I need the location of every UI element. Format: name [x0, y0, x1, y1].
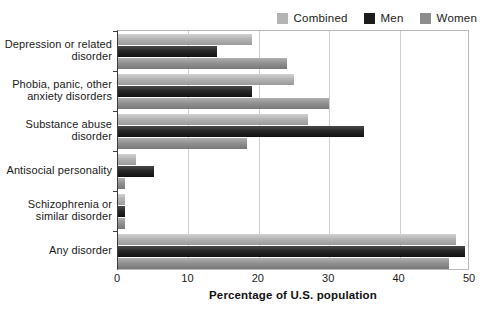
y-axis-label-line: Schizophrenia or — [0, 198, 112, 211]
bar-combined — [118, 234, 456, 245]
x-axis-tick-50: 50 — [463, 272, 475, 284]
bar-combined — [118, 154, 136, 165]
bar-combined — [118, 34, 252, 45]
bar-men — [118, 246, 465, 257]
x-axis-tick-labels: 01020304050 — [117, 272, 469, 288]
bar-group — [118, 111, 468, 151]
y-axis-label-line: disorder — [0, 130, 112, 143]
bar-women — [118, 138, 247, 149]
x-axis-tick-10: 10 — [181, 272, 193, 284]
y-axis-label-line: Antisocial personality — [0, 164, 112, 177]
y-axis-tick — [113, 151, 118, 152]
y-axis-tick — [113, 31, 118, 32]
legend-label-women: Women — [437, 12, 477, 24]
chart-plot-area — [117, 30, 469, 270]
bar-men — [118, 46, 217, 57]
legend-label-men: Men — [381, 12, 404, 24]
bar-group — [118, 71, 468, 111]
bar-group — [118, 31, 468, 71]
bar-group — [118, 191, 468, 231]
legend-item-combined: Combined — [277, 12, 348, 24]
y-axis-label: Substance abusedisorder — [0, 118, 112, 143]
y-axis-label-line: Any disorder — [0, 244, 112, 257]
x-axis-tick-40: 40 — [392, 272, 404, 284]
x-axis-tick-0: 0 — [114, 272, 120, 284]
y-axis-label-line: disorder — [0, 50, 112, 63]
chart-legend: Combined Men Women — [277, 10, 477, 26]
legend-swatch-women — [420, 13, 431, 24]
y-axis-label-line: anxiety disorders — [0, 90, 112, 103]
y-axis-label: Depression or relateddisorder — [0, 38, 112, 63]
bar-group — [118, 151, 468, 191]
y-axis-label-line: Substance abuse — [0, 118, 112, 131]
bar-women — [118, 58, 287, 69]
bar-men — [118, 166, 154, 177]
y-axis-label: Antisocial personality — [0, 164, 112, 177]
bar-men — [118, 126, 364, 137]
y-axis-tick — [113, 191, 118, 192]
y-axis-tick — [113, 71, 118, 72]
legend-item-men: Men — [364, 12, 404, 24]
legend-swatch-men — [364, 13, 375, 24]
y-axis-labels: Depression or relateddisorderPhobia, pan… — [0, 30, 112, 270]
bar-women — [118, 178, 125, 189]
legend-swatch-combined — [277, 13, 288, 24]
y-axis-tick — [113, 111, 118, 112]
bar-group — [118, 231, 468, 271]
bar-men — [118, 86, 252, 97]
y-axis-label-line: Phobia, panic, other — [0, 78, 112, 91]
chart-bar-rows — [118, 31, 468, 269]
y-axis-label: Phobia, panic, otheranxiety disorders — [0, 78, 112, 103]
x-axis-title: Percentage of U.S. population — [117, 289, 469, 301]
y-axis-label-line: Depression or related — [0, 38, 112, 51]
y-axis-label: Schizophrenia orsimilar disorder — [0, 198, 112, 223]
bar-women — [118, 98, 329, 109]
y-axis-label: Any disorder — [0, 244, 112, 257]
x-axis-tick-30: 30 — [322, 272, 334, 284]
bar-combined — [118, 194, 125, 205]
bar-combined — [118, 74, 294, 85]
bar-women — [118, 258, 449, 269]
bar-women — [118, 218, 125, 229]
legend-item-women: Women — [420, 12, 477, 24]
y-axis-label-line: similar disorder — [0, 210, 112, 223]
legend-label-combined: Combined — [294, 12, 348, 24]
bar-combined — [118, 114, 308, 125]
bar-men — [118, 206, 125, 217]
x-axis-tick-20: 20 — [252, 272, 264, 284]
y-axis-tick — [113, 231, 118, 232]
